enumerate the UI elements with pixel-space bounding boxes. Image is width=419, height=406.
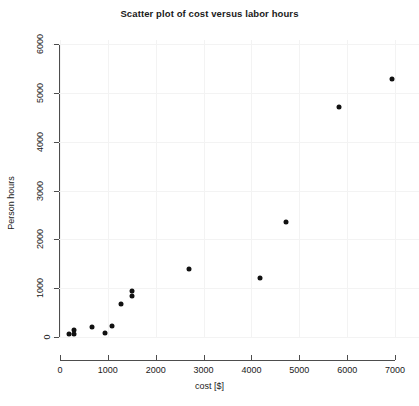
- data-point: [389, 76, 394, 81]
- x-axis-line: [60, 360, 395, 361]
- grid-line-horizontal: [52, 93, 419, 94]
- grid-line-vertical: [395, 40, 396, 337]
- x-axis-tick: [156, 355, 157, 360]
- y-axis-tick: [54, 93, 59, 94]
- grid-line-horizontal: [52, 239, 419, 240]
- x-axis-tick-label: 6000: [337, 365, 357, 375]
- x-axis-tick-label: 3000: [194, 365, 214, 375]
- grid-line-horizontal: [52, 44, 419, 45]
- data-point: [284, 220, 289, 225]
- data-point: [103, 331, 108, 336]
- grid-line-horizontal: [52, 142, 419, 143]
- x-axis-tick: [347, 355, 348, 360]
- data-point: [89, 324, 94, 329]
- data-point: [129, 293, 134, 298]
- y-axis-tick: [54, 337, 59, 338]
- x-axis-tick-label: 2000: [146, 365, 166, 375]
- x-axis-tick-label: 5000: [289, 365, 309, 375]
- y-axis-tick: [54, 44, 59, 45]
- grid-line-horizontal: [52, 288, 419, 289]
- x-axis-tick: [251, 355, 252, 360]
- grid-line-vertical: [347, 40, 348, 337]
- data-point: [258, 276, 263, 281]
- x-axis-tick-label: 0: [57, 365, 62, 375]
- x-axis-tick-label: 1000: [98, 365, 118, 375]
- grid-line-vertical: [108, 40, 109, 337]
- data-point: [187, 267, 192, 272]
- x-axis-tick: [395, 355, 396, 360]
- grid-line-vertical: [204, 40, 205, 337]
- x-axis-label: cost [$]: [0, 381, 419, 391]
- y-axis-tick: [54, 288, 59, 289]
- data-point: [336, 105, 341, 110]
- x-axis-tick: [108, 355, 109, 360]
- grid-line-vertical: [60, 40, 61, 337]
- grid-line-vertical: [299, 40, 300, 337]
- data-point: [66, 332, 71, 337]
- grid-line-horizontal: [52, 191, 419, 192]
- chart-title: Scatter plot of cost versus labor hours: [0, 8, 419, 19]
- data-point: [119, 302, 124, 307]
- x-axis-tick-label: 4000: [241, 365, 261, 375]
- grid-line-vertical: [251, 40, 252, 337]
- y-axis-tick-label: 1000: [30, 283, 50, 293]
- y-axis-tick-label: 2000: [30, 234, 50, 244]
- y-axis-tick-label: 0: [45, 332, 50, 342]
- y-axis-tick-label: 6000: [30, 39, 50, 49]
- grid-line-horizontal: [52, 337, 419, 338]
- x-axis-tick: [299, 355, 300, 360]
- plot-area: [60, 44, 395, 337]
- x-axis-tick: [204, 355, 205, 360]
- scatter-plot-figure: Scatter plot of cost versus labor hours …: [0, 0, 419, 406]
- data-point: [72, 332, 77, 337]
- y-axis-tick-label: 5000: [30, 88, 50, 98]
- data-point: [130, 288, 135, 293]
- y-axis-label: Person hours: [4, 0, 18, 406]
- y-axis-tick-label: 4000: [30, 137, 50, 147]
- x-axis-tick-label: 7000: [385, 365, 405, 375]
- x-axis-tick: [60, 355, 61, 360]
- y-axis-tick: [54, 142, 59, 143]
- y-axis-tick: [54, 191, 59, 192]
- y-axis-tick: [54, 239, 59, 240]
- y-axis-label-text: Person hours: [6, 176, 16, 230]
- y-axis-tick-label: 3000: [30, 186, 50, 196]
- grid-line-vertical: [156, 40, 157, 337]
- data-point: [110, 323, 115, 328]
